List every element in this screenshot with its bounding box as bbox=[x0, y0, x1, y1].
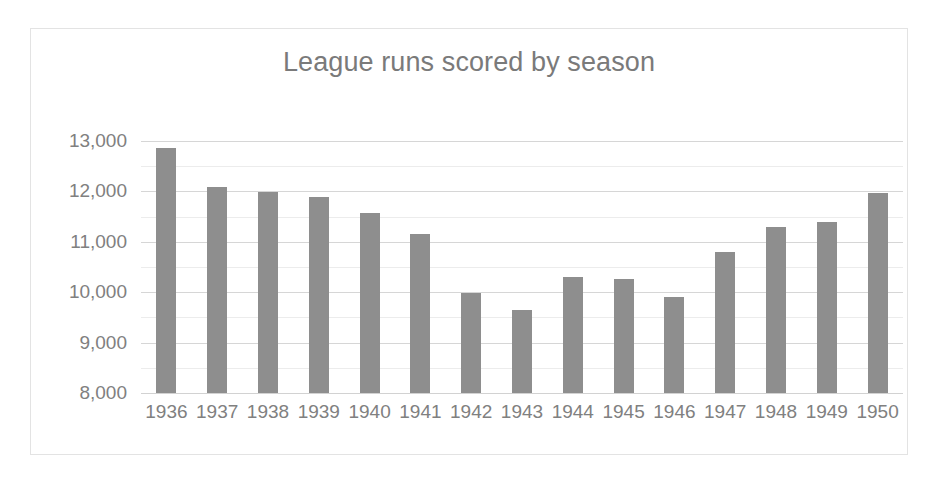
bar-slot bbox=[598, 141, 649, 393]
bar[interactable] bbox=[309, 197, 329, 393]
x-axis-label: 1947 bbox=[704, 401, 746, 423]
x-axis-label: 1946 bbox=[653, 401, 695, 423]
bar[interactable] bbox=[664, 297, 684, 393]
chart-title: League runs scored by season bbox=[31, 47, 907, 78]
bar-series bbox=[141, 141, 903, 393]
x-axis-label: 1950 bbox=[856, 401, 898, 423]
bar-slot bbox=[649, 141, 700, 393]
bar-slot bbox=[141, 141, 192, 393]
bar-slot bbox=[751, 141, 802, 393]
x-axis-label: 1937 bbox=[196, 401, 238, 423]
y-axis-label: 9,000 bbox=[37, 332, 127, 354]
bar-slot bbox=[547, 141, 598, 393]
x-axis-label: 1936 bbox=[145, 401, 187, 423]
bar[interactable] bbox=[258, 192, 278, 393]
bar[interactable] bbox=[156, 148, 176, 393]
y-axis-label: 8,000 bbox=[37, 382, 127, 404]
bar-slot bbox=[395, 141, 446, 393]
bar-slot bbox=[801, 141, 852, 393]
bar-slot bbox=[852, 141, 903, 393]
y-axis-label: 13,000 bbox=[37, 130, 127, 152]
bar[interactable] bbox=[614, 279, 634, 393]
bar-slot bbox=[446, 141, 497, 393]
bar[interactable] bbox=[410, 234, 430, 393]
bar-slot bbox=[344, 141, 395, 393]
x-axis-label: 1939 bbox=[298, 401, 340, 423]
bar[interactable] bbox=[512, 310, 532, 393]
plot-area: 8,0009,00010,00011,00012,00013,000 bbox=[141, 141, 903, 393]
bar-slot bbox=[243, 141, 294, 393]
bar[interactable] bbox=[461, 293, 481, 393]
bar-slot bbox=[192, 141, 243, 393]
bar-slot bbox=[700, 141, 751, 393]
bar[interactable] bbox=[817, 222, 837, 393]
x-axis-label: 1940 bbox=[348, 401, 390, 423]
y-axis-label: 12,000 bbox=[37, 180, 127, 202]
axis-baseline bbox=[141, 393, 903, 394]
bar[interactable] bbox=[360, 213, 380, 393]
x-axis-label: 1944 bbox=[552, 401, 594, 423]
bar[interactable] bbox=[563, 277, 583, 393]
bar[interactable] bbox=[715, 252, 735, 393]
x-axis-label: 1941 bbox=[399, 401, 441, 423]
bar-slot bbox=[497, 141, 548, 393]
bar-slot bbox=[293, 141, 344, 393]
x-axis-label: 1949 bbox=[806, 401, 848, 423]
y-axis-label: 11,000 bbox=[37, 231, 127, 253]
bar[interactable] bbox=[766, 227, 786, 393]
chart-screenshot: League runs scored by season 8,0009,0001… bbox=[0, 0, 935, 482]
x-axis-label: 1938 bbox=[247, 401, 289, 423]
x-axis-label: 1945 bbox=[602, 401, 644, 423]
x-axis-label: 1943 bbox=[501, 401, 543, 423]
chart-frame: League runs scored by season 8,0009,0001… bbox=[30, 28, 908, 455]
x-axis-label: 1942 bbox=[450, 401, 492, 423]
x-axis-label: 1948 bbox=[755, 401, 797, 423]
x-axis-tick-labels: 1936193719381939194019411942194319441945… bbox=[141, 401, 903, 435]
bar[interactable] bbox=[868, 193, 888, 393]
y-axis-label: 10,000 bbox=[37, 281, 127, 303]
bar[interactable] bbox=[207, 187, 227, 393]
